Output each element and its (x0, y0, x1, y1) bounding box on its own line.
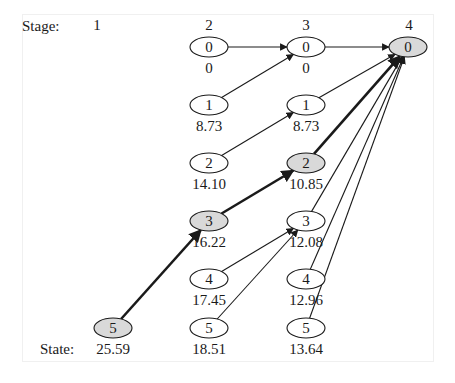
node-stage2-state1: 18.73 (190, 95, 228, 134)
diagram-container: 525.590018.73214.10316.22417.45518.51001… (0, 0, 455, 383)
edge-s2n1-to-s3n0 (222, 55, 294, 98)
node-state-label: 5 (109, 320, 117, 336)
node-cost-value: 18.51 (192, 341, 226, 357)
node-state-label: 5 (302, 320, 310, 336)
node-state-label: 1 (205, 97, 213, 113)
node-state-label: 3 (302, 213, 310, 229)
stage-caption: Stage: (22, 18, 60, 34)
node-state-label: 0 (302, 39, 310, 55)
edge-s2n3-to-s3n2-optimal-path (222, 171, 294, 214)
node-stage2-state0: 00 (190, 37, 228, 76)
node-cost-value: 17.45 (192, 292, 226, 308)
node-cost-value: 16.22 (192, 234, 226, 250)
node-stage2-state2: 214.10 (190, 153, 228, 192)
edge-s2n4-to-s3n3 (222, 229, 294, 272)
node-stage1-state5: 525.59 (94, 318, 132, 357)
node-state-label: 4 (205, 271, 213, 287)
node-state-label: 2 (205, 155, 213, 171)
edge-s1n5-to-s2n3-optimal-path (121, 230, 201, 319)
node-cost-value: 12.08 (289, 234, 323, 250)
node-cost-value: 25.59 (96, 341, 130, 357)
node-stage3-state5: 513.64 (287, 318, 325, 357)
node-stage2-state5: 518.51 (190, 318, 228, 357)
node-cost-value: 10.85 (289, 176, 323, 192)
edge-s2n5-to-s3n3 (217, 230, 298, 319)
stage-number-1: 1 (93, 17, 101, 33)
stage-number-2: 2 (205, 17, 213, 33)
node-cost-value: 13.64 (289, 341, 323, 357)
stage-number-4: 4 (405, 17, 413, 33)
node-state-label: 3 (205, 213, 213, 229)
node-stage2-state4: 417.45 (190, 269, 228, 308)
node-cost-value: 8.73 (293, 118, 319, 134)
node-state-label: 4 (302, 271, 310, 287)
node-cost-value: 0 (302, 60, 310, 76)
node-stage2-state3: 316.22 (190, 211, 228, 250)
node-stage3-state4: 412.96 (287, 269, 325, 308)
edges-layer (121, 47, 404, 319)
node-stage3-state2: 210.85 (287, 153, 325, 192)
node-stage3-state1: 18.73 (287, 95, 325, 134)
node-cost-value: 14.10 (192, 176, 226, 192)
node-stage3-state3: 312.08 (287, 211, 325, 250)
node-cost-value: 8.73 (196, 118, 222, 134)
stage-number-3: 3 (302, 17, 310, 33)
node-cost-value: 0 (205, 60, 213, 76)
node-cost-value: 12.96 (289, 292, 323, 308)
edge-s2n2-to-s3n1 (222, 113, 294, 156)
node-stage3-state0: 00 (287, 37, 325, 76)
node-state-label: 0 (205, 39, 213, 55)
shortest-path-graph: 525.590018.73214.10316.22417.45518.51001… (0, 0, 455, 383)
node-state-label: 5 (205, 320, 213, 336)
state-caption: State: (40, 341, 74, 357)
node-state-label: 1 (302, 97, 310, 113)
node-stage4-state0: 0 (389, 37, 427, 57)
node-state-label: 0 (404, 39, 412, 55)
nodes-layer: 525.590018.73214.10316.22417.45518.51001… (94, 37, 427, 357)
node-state-label: 2 (302, 155, 310, 171)
